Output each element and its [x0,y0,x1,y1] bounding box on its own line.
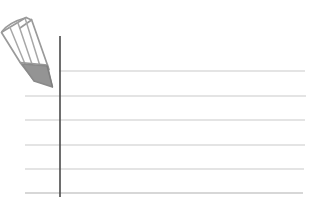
screenshot-canvas: Ruled notebook paper with pencil [0,0,312,205]
page-background [0,0,312,205]
paper-illustration [0,0,312,205]
